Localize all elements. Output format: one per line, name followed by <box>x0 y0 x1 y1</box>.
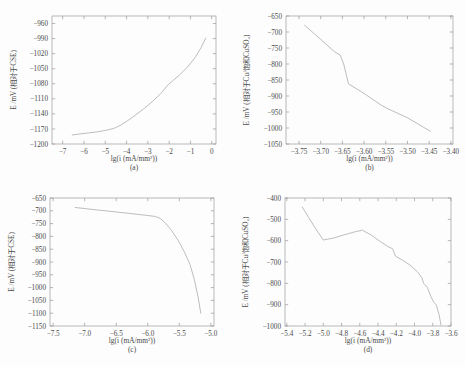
x-tick-label: −6 <box>80 148 88 156</box>
panel-label: (d) <box>364 345 373 354</box>
plot-b: −3.75−3.70−3.65−3.60−3.55−3.50−3.45−3.40… <box>233 0 465 186</box>
y-tick-label: −800 <box>267 61 282 69</box>
x-axis-label: lg(i (mA/mm²)) <box>111 154 158 163</box>
y-tick-label: −950 <box>267 109 282 117</box>
x-axis-label: lg(i (mA/mm²)) <box>345 336 392 345</box>
y-tick-label: −650 <box>31 195 46 203</box>
y-axis-label: E /mV (相对于CSE) <box>7 232 16 292</box>
plot-frame <box>286 16 453 144</box>
y-tick-label: −960 <box>33 20 48 28</box>
y-axis-label: E /mV (相对于Cu/饱和CuSO₄) <box>241 216 250 307</box>
y-tick-label: −400 <box>266 195 281 203</box>
x-tick-label: −5.0 <box>317 330 330 338</box>
y-tick-label: −1000 <box>28 284 47 292</box>
y-tick-label: −1000 <box>264 125 283 133</box>
y-tick-label: −750 <box>31 220 46 228</box>
y-tick-label: −1020 <box>30 50 49 58</box>
x-tick-label: −7.5 <box>47 330 60 338</box>
y-tick-label: −1050 <box>264 141 283 149</box>
x-tick-label: −3.50 <box>399 148 416 156</box>
panel-label: (a) <box>130 163 139 172</box>
y-tick-label: −650 <box>267 13 282 21</box>
x-tick-label: −1 <box>187 148 195 156</box>
x-axis-label: lg(i (mA/mm²)) <box>109 336 156 345</box>
x-tick-label: −7 <box>59 148 67 156</box>
y-tick-label: −850 <box>267 77 282 85</box>
figure-sheet: −7−6−5−4−3−2−10−1200−1170−1140−1110−1080… <box>0 0 465 367</box>
plot-c: −7.5−7.0−6.5−6.0−5.5−5.0−1150−1100−1050−… <box>0 186 232 367</box>
x-tick-label: −5 <box>101 148 109 156</box>
x-tick-label: −5.4 <box>280 330 293 338</box>
panel-label: (c) <box>128 345 137 354</box>
x-tick-label: −5.2 <box>299 330 312 338</box>
y-tick-label: −990 <box>33 35 48 43</box>
x-tick-label: −5.5 <box>173 330 186 338</box>
y-tick-label: −700 <box>267 29 282 37</box>
y-tick-label: −1110 <box>30 95 48 103</box>
y-tick-label: −1150 <box>28 323 47 331</box>
y-tick-label: −900 <box>31 259 46 267</box>
y-tick-label: −1200 <box>30 141 49 149</box>
panel-d: −5.4−5.2−5.0−4.8−4.6−4.4−4.2−4.0−3.8−3.6… <box>233 186 465 367</box>
y-tick-label: −850 <box>31 246 46 254</box>
y-tick-label: −1100 <box>28 310 47 318</box>
y-tick-label: −600 <box>266 237 281 245</box>
x-tick-label: −3.8 <box>426 330 439 338</box>
data-series-line <box>305 25 431 131</box>
y-tick-label: −1080 <box>30 80 49 88</box>
plot-frame <box>285 198 451 326</box>
x-tick-label: −3.40 <box>443 148 460 156</box>
x-tick-label: −7.0 <box>78 330 91 338</box>
panel-b: −3.75−3.70−3.65−3.60−3.55−3.50−3.45−3.40… <box>233 0 465 186</box>
y-tick-label: −800 <box>266 280 281 288</box>
x-tick-label: −5.0 <box>204 330 217 338</box>
y-tick-label: −700 <box>266 259 281 267</box>
panel-label: (b) <box>365 163 374 172</box>
y-tick-label: −1140 <box>30 110 49 118</box>
y-tick-label: −1000 <box>263 323 282 331</box>
x-axis-label: lg(i (mA/mm²)) <box>346 154 393 163</box>
y-tick-label: −950 <box>31 271 46 279</box>
plot-a: −7−6−5−4−3−2−10−1200−1170−1140−1110−1080… <box>0 0 232 186</box>
y-axis-label: E /mV (相对于CSE) <box>9 50 18 110</box>
y-tick-label: −1050 <box>28 297 47 305</box>
plot-frame <box>52 16 216 144</box>
y-tick-label: −1050 <box>30 65 49 73</box>
data-series-line <box>75 207 201 313</box>
y-tick-label: −500 <box>266 216 281 224</box>
y-tick-label: −700 <box>31 207 46 215</box>
x-tick-label: −3.45 <box>421 148 438 156</box>
data-series-line <box>72 38 206 135</box>
x-tick-label: −2 <box>165 148 173 156</box>
y-tick-label: −750 <box>267 45 282 53</box>
x-tick-label: −3.6 <box>444 330 457 338</box>
y-tick-label: −900 <box>266 301 281 309</box>
x-tick-label: −3.70 <box>312 148 329 156</box>
panel-a: −7−6−5−4−3−2−10−1200−1170−1140−1110−1080… <box>0 0 232 186</box>
panel-c: −7.5−7.0−6.5−6.0−5.5−5.0−1150−1100−1050−… <box>0 186 232 367</box>
plot-d: −5.4−5.2−5.0−4.8−4.6−4.4−4.2−4.0−3.8−3.6… <box>233 186 465 367</box>
x-tick-label: −3.75 <box>291 148 308 156</box>
data-series-line <box>302 207 441 325</box>
x-tick-label: −4.0 <box>408 330 421 338</box>
x-tick-label: −4.2 <box>390 330 403 338</box>
y-tick-label: −800 <box>31 233 46 241</box>
y-axis-label: E /mV (相对于Cu/饱和CuSO₄) <box>242 34 251 125</box>
y-tick-label: −900 <box>267 93 282 101</box>
y-tick-label: −1170 <box>30 126 49 134</box>
x-tick-label: 0 <box>210 148 214 156</box>
